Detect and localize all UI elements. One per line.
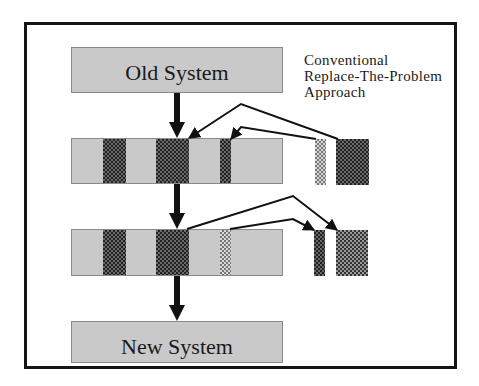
replace-arrow-icon	[189, 104, 338, 139]
flow-arrow-icon	[169, 184, 185, 229]
flow-arrow-icon	[169, 93, 185, 138]
replace-arrow-icon	[231, 127, 316, 139]
flow-arrow-icon	[169, 276, 185, 321]
arrows-overlay	[0, 0, 479, 386]
extract-arrow-icon	[230, 219, 314, 230]
